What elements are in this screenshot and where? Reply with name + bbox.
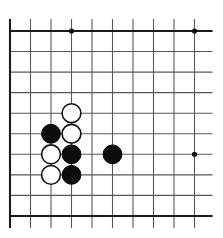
star-point-1 bbox=[69, 28, 74, 33]
black-stone-c4r7[interactable] bbox=[62, 145, 81, 164]
white-stone-c3r7[interactable] bbox=[42, 145, 61, 164]
black-stone-c4r8[interactable] bbox=[62, 165, 81, 184]
go-board-canvas[interactable] bbox=[0, 0, 223, 238]
white-stone-c4r6[interactable] bbox=[62, 124, 81, 143]
board-edges bbox=[10, 19, 213, 228]
white-stone-c4r5[interactable] bbox=[62, 104, 81, 123]
black-stone-c6r7[interactable] bbox=[103, 145, 122, 164]
star-point-3 bbox=[192, 152, 197, 157]
board-grid bbox=[10, 19, 213, 228]
go-board-diagram bbox=[0, 0, 223, 238]
star-point-2 bbox=[192, 28, 197, 33]
board-stones[interactable] bbox=[42, 104, 122, 184]
white-stone-c3r8[interactable] bbox=[42, 165, 61, 184]
black-stone-c3r6[interactable] bbox=[42, 124, 61, 143]
